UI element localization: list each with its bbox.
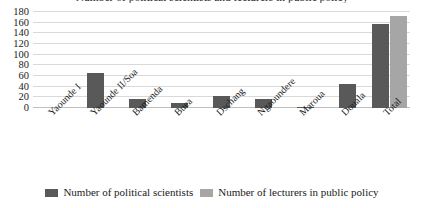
y-axis-tick-label: 20 [19,92,30,102]
y-axis-tick-labels: 020406080100120140160180 [0,0,33,112]
y-axis-tick-label: 0 [24,103,29,113]
y-axis-tick-label: 40 [19,82,30,92]
legend-label: Number of political scientists [63,186,193,199]
y-axis-tick-label: 100 [13,50,29,60]
x-axis-tick-labels: Yaounde IYaounde II/SoaBamendaBueaDschan… [33,108,410,170]
legend-swatch-icon [45,189,58,197]
chart-figure: Number of political scientists and lectu… [0,0,424,208]
chart-legend: Number of political scientistsNumber of … [0,186,424,199]
bar-group [159,12,201,108]
legend-item[interactable]: Number of political scientists [45,186,193,199]
y-axis-tick-label: 160 [13,18,29,28]
y-axis-tick-label: 80 [19,60,30,70]
legend-item[interactable]: Number of lecturers in public policy [200,186,378,199]
bar [372,24,389,108]
y-axis-tick-label: 120 [13,39,29,49]
legend-label: Number of lecturers in public policy [218,186,378,199]
y-axis-tick-label: 60 [19,71,30,81]
bar [390,16,407,108]
bar-group [368,12,410,108]
y-axis-tick-label: 180 [13,7,29,17]
legend-swatch-icon [200,189,213,197]
chart-title: Number of political scientists and lectu… [0,0,424,3]
y-axis-tick-label: 140 [13,28,29,38]
